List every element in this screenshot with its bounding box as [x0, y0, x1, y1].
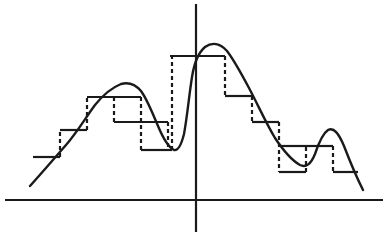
figure-container: [0, 0, 390, 236]
axes-group: [5, 4, 383, 232]
waveform-quantization-figure: [0, 0, 390, 236]
